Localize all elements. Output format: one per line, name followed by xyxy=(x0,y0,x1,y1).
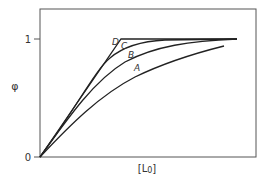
curve-a xyxy=(40,46,224,157)
curve-a-label: A xyxy=(133,63,140,73)
x-axis-label: [L0] xyxy=(138,163,157,175)
curve-b xyxy=(40,39,237,157)
curve-c xyxy=(40,39,237,157)
y-tick-1-label: 1 xyxy=(25,34,31,45)
curve-d xyxy=(40,39,237,157)
curve-c-label: C xyxy=(121,41,128,51)
chart: 1 0 φ [L0] D C B A xyxy=(0,0,265,180)
y-tick-0-label: 0 xyxy=(25,152,31,163)
y-axis-label: φ xyxy=(11,80,18,93)
plot-frame xyxy=(40,9,256,157)
curve-b-label: B xyxy=(128,50,134,60)
curve-d-label: D xyxy=(112,37,119,47)
